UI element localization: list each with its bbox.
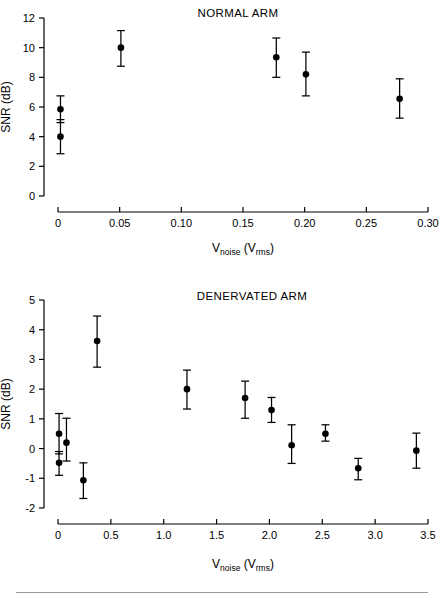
- x-axis-tick-label: 0.05: [109, 217, 130, 229]
- y-axis-tick-label: 0: [29, 190, 35, 202]
- data-point: [268, 397, 276, 422]
- data-marker: [355, 465, 362, 472]
- data-point: [412, 433, 420, 468]
- data-marker: [288, 442, 295, 449]
- data-point: [56, 96, 64, 123]
- data-marker: [57, 133, 64, 140]
- data-marker: [80, 477, 87, 484]
- data-marker: [322, 430, 329, 437]
- y-axis-tick-label: -2: [25, 502, 35, 514]
- y-axis-tick-label: 4: [29, 324, 35, 336]
- x-axis-title-text: Vnoise (Vrms): [212, 557, 274, 573]
- y-axis-title: SNR (dB): [0, 378, 13, 429]
- data-point: [56, 120, 64, 154]
- y-axis-tick-label: 2: [29, 160, 35, 172]
- x-axis-title: Vnoise (Vrms): [212, 557, 274, 573]
- data-marker: [242, 395, 249, 402]
- y-axis-tick-label: 3: [29, 353, 35, 365]
- data-marker: [63, 439, 70, 446]
- x-axis-tick-label: 0: [55, 529, 61, 541]
- x-axis-tick-label: 1.0: [156, 529, 171, 541]
- axes-group: 02468101200.050.100.150.200.250.30: [23, 12, 439, 229]
- scatter-plot-denervated-arm: -2-101234500.51.01.52.02.53.03.5SNR (dB)…: [0, 280, 444, 580]
- axes-group: -2-101234500.51.01.52.02.53.03.5: [25, 294, 435, 541]
- x-axis-tick-label: 0.15: [232, 217, 253, 229]
- x-axis-title-text: Vnoise (Vrms): [212, 241, 274, 257]
- x-axis-tick-label: 0.20: [294, 217, 315, 229]
- data-point: [117, 31, 125, 67]
- x-axis-tick-label: 0.25: [356, 217, 377, 229]
- data-marker: [273, 54, 280, 61]
- data-marker: [56, 430, 63, 437]
- data-point: [183, 370, 191, 409]
- y-axis-tick-label: 0: [29, 443, 35, 455]
- data-point: [55, 414, 63, 454]
- y-axis-tick-label: 4: [29, 131, 35, 143]
- data-point: [288, 425, 296, 464]
- data-point: [272, 38, 280, 77]
- data-series: [56, 31, 403, 154]
- data-marker: [56, 460, 63, 467]
- y-axis-title: SNR (dB): [0, 81, 13, 132]
- scatter-plot-normal-arm: 02468101200.050.100.150.200.250.30SNR (d…: [0, 0, 444, 270]
- x-axis-tick-label: 1.5: [209, 529, 224, 541]
- data-point: [241, 381, 249, 418]
- x-axis-tick-label: 0.30: [417, 217, 438, 229]
- y-axis-tick-label: 10: [23, 42, 35, 54]
- x-axis-tick-label: 0.5: [103, 529, 118, 541]
- x-axis-title: Vnoise (Vrms): [212, 241, 274, 257]
- data-marker: [413, 447, 420, 454]
- data-marker: [184, 386, 191, 393]
- data-point: [55, 452, 63, 476]
- footer-divider: [16, 592, 428, 593]
- chart-title: DENERVATED ARM: [197, 290, 307, 302]
- data-point: [79, 463, 87, 499]
- data-marker: [268, 407, 275, 414]
- data-point: [93, 316, 101, 367]
- x-axis-tick-label: 2.5: [315, 529, 330, 541]
- y-axis-tick-label: -1: [25, 472, 35, 484]
- data-point: [354, 458, 362, 479]
- y-axis-tick-label: 2: [29, 383, 35, 395]
- y-axis-tick-label: 5: [29, 294, 35, 306]
- data-marker: [118, 44, 125, 51]
- chart-panel-denervated-arm: -2-101234500.51.01.52.02.53.03.5SNR (dB)…: [0, 280, 444, 580]
- x-axis-tick-label: 3.0: [367, 529, 382, 541]
- data-point: [302, 52, 310, 96]
- figure-container: 02468101200.050.100.150.200.250.30SNR (d…: [0, 0, 444, 600]
- x-axis-tick-label: 2.0: [262, 529, 277, 541]
- chart-title: NORMAL ARM: [198, 7, 279, 19]
- data-marker: [94, 338, 101, 345]
- data-point: [396, 79, 404, 118]
- y-axis-tick-label: 12: [23, 12, 35, 24]
- x-axis-tick-label: 3.5: [420, 529, 435, 541]
- y-axis-tick-label: 8: [29, 71, 35, 83]
- y-axis-tick-label: 6: [29, 101, 35, 113]
- data-marker: [303, 71, 310, 78]
- y-axis-tick-label: 1: [29, 413, 35, 425]
- data-point: [62, 418, 70, 461]
- data-marker: [396, 96, 403, 103]
- chart-panel-normal-arm: 02468101200.050.100.150.200.250.30SNR (d…: [0, 0, 444, 270]
- x-axis-tick-label: 0: [55, 217, 61, 229]
- data-marker: [57, 106, 64, 113]
- data-point: [321, 425, 329, 441]
- data-series: [55, 316, 420, 498]
- x-axis-tick-label: 0.10: [171, 217, 192, 229]
